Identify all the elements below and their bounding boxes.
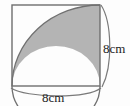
geometry-svg: 8cm 8cm xyxy=(0,0,130,106)
shaded-lune-region xyxy=(12,5,100,86)
right-dimension-label: 8cm xyxy=(103,41,125,56)
bottom-dimension-label: 8cm xyxy=(42,90,64,105)
geometry-figure: 8cm 8cm xyxy=(0,0,130,106)
